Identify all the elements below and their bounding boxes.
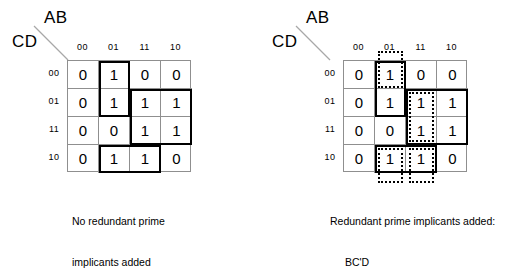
cell-r1-c1[interactable]: 1: [99, 89, 130, 117]
cell-r1-c3[interactable]: 1: [437, 89, 468, 117]
kmap-panel-left: AB CD 00 01 11 10 00 01 11 10 0 1 0 0 0 …: [0, 0, 264, 273]
cell-r2-c2[interactable]: 1: [406, 117, 437, 145]
row-header-11: 11: [44, 124, 64, 134]
col-header-10: 10: [436, 42, 467, 52]
cell-r0-c1[interactable]: 1: [99, 61, 130, 89]
cell-r3-c3[interactable]: 0: [437, 145, 468, 173]
cell-r0-c1[interactable]: 1: [375, 61, 406, 89]
col-header-10: 10: [160, 42, 191, 52]
cd-axis-label: CD: [272, 32, 298, 52]
col-header-01: 01: [374, 42, 405, 52]
cell-r1-c2[interactable]: 1: [130, 89, 161, 117]
cell-r2-c0[interactable]: 0: [68, 117, 99, 145]
cell-r1-c0[interactable]: 0: [344, 89, 375, 117]
kmap-panel-right: AB CD 00 01 11 10 00 01 11 10 0 1 0 0 0 …: [264, 0, 528, 273]
row-header-11: 11: [320, 124, 340, 134]
cell-r3-c3[interactable]: 0: [161, 145, 192, 173]
cell-r0-c2[interactable]: 0: [130, 61, 161, 89]
caption-left-line-1: No redundant prime: [72, 215, 165, 229]
cell-r1-c1[interactable]: 1: [375, 89, 406, 117]
col-header-01: 01: [98, 42, 129, 52]
col-header-11: 11: [405, 42, 436, 52]
kmap-grid-right: 0 1 0 0 0 1 1 1 0 0 1 1 0 1 1 0: [343, 60, 467, 172]
cell-r3-c0[interactable]: 0: [344, 145, 375, 173]
cell-r2-c3[interactable]: 1: [161, 117, 192, 145]
cell-r2-c1[interactable]: 0: [375, 117, 406, 145]
ab-axis-label: AB: [306, 8, 330, 28]
axis-divider-diagonal-line: [296, 26, 334, 62]
cell-r0-c3[interactable]: 0: [437, 61, 468, 89]
cell-r0-c0[interactable]: 0: [344, 61, 375, 89]
cell-r3-c0[interactable]: 0: [68, 145, 99, 173]
cell-r2-c1[interactable]: 0: [99, 117, 130, 145]
cell-r1-c3[interactable]: 1: [161, 89, 192, 117]
row-header-00: 00: [320, 68, 340, 78]
row-header-10: 10: [44, 152, 64, 162]
row-header-01: 01: [44, 96, 64, 106]
cell-r0-c3[interactable]: 0: [161, 61, 192, 89]
col-header-00: 00: [343, 42, 374, 52]
col-header-11: 11: [129, 42, 160, 52]
cell-r1-c0[interactable]: 0: [68, 89, 99, 117]
caption-right-line-2: BC'D: [330, 256, 495, 270]
cell-r1-c2[interactable]: 1: [406, 89, 437, 117]
cell-r2-c3[interactable]: 1: [437, 117, 468, 145]
caption-left: No redundant prime implicants added Haza…: [72, 188, 165, 273]
row-header-00: 00: [44, 68, 64, 78]
cell-r0-c2[interactable]: 0: [406, 61, 437, 89]
ab-axis-label: AB: [44, 8, 68, 28]
cell-r2-c2[interactable]: 1: [130, 117, 161, 145]
cell-r2-c0[interactable]: 0: [344, 117, 375, 145]
row-header-01: 01: [320, 96, 340, 106]
caption-right: Redundant prime implicants added: BC'D A…: [330, 188, 495, 273]
caption-left-line-2: implicants added: [72, 256, 165, 270]
cell-r3-c1[interactable]: 1: [375, 145, 406, 173]
col-header-00: 00: [67, 42, 98, 52]
row-header-10: 10: [320, 152, 340, 162]
cell-r3-c2[interactable]: 1: [130, 145, 161, 173]
cell-r0-c0[interactable]: 0: [68, 61, 99, 89]
kmap-grid-left: 0 1 0 0 0 1 1 1 0 0 1 1 0 1 1 0: [67, 60, 191, 172]
caption-right-line-1: Redundant prime implicants added:: [330, 215, 495, 229]
cell-r3-c1[interactable]: 1: [99, 145, 130, 173]
cell-r3-c2[interactable]: 1: [406, 145, 437, 173]
